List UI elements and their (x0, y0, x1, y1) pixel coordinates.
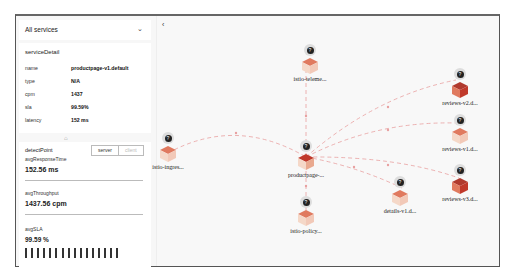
sla-bar-chart (25, 248, 118, 258)
avg-throughput-label: avgThroughput (25, 190, 59, 196)
node-reviews-v2[interactable]: reviews-v2.d... (430, 68, 490, 106)
service-badge-icon (454, 68, 466, 80)
avg-response-time-value: 152.56 ms (25, 166, 58, 173)
detect-point-label: detectPoint (25, 147, 53, 153)
cube-icon (451, 81, 469, 99)
service-badge-icon (300, 196, 312, 208)
cube-icon (297, 209, 315, 227)
detail-value: 152 ms (71, 117, 89, 123)
node-istio-ingress[interactable]: istio-ingres... (138, 132, 198, 170)
detail-value: N/A (71, 78, 80, 84)
cube-icon (159, 145, 177, 163)
node-label: reviews-v3.d... (430, 196, 490, 202)
detail-value: 99.59% (71, 104, 89, 110)
avg-response-time-label: avgResponseTime (25, 156, 67, 162)
avg-throughput-sparkline (25, 214, 143, 215)
avg-throughput-value: 1437.56 cpm (25, 200, 67, 207)
cube-icon (451, 177, 469, 195)
node-label: reviews-v1.d... (430, 146, 490, 152)
cube-icon (451, 127, 469, 145)
service-detail-title: serviceDetail (25, 49, 59, 55)
service-badge-icon (454, 114, 466, 126)
collapse-icon[interactable]: ⌂ (64, 135, 68, 141)
topology-panel: All services ⌄ serviceDetail nameproduct… (15, 14, 500, 267)
node-productpage[interactable]: productpage-... (276, 140, 336, 178)
service-select-value: All services (25, 26, 58, 33)
detail-key: latency (25, 117, 41, 123)
node-istio-telemetry[interactable]: istio-teleme... (280, 44, 340, 82)
avg-sla-value: 99.59 % (25, 236, 49, 243)
cube-icon (391, 189, 409, 207)
detail-value: 1437 (71, 91, 83, 97)
detail-key: type (25, 78, 35, 84)
chevron-down-icon: ⌄ (137, 25, 143, 33)
service-badge-icon (300, 140, 312, 152)
avg-sla-label: avgSLA (25, 226, 43, 232)
service-detail-card: serviceDetail nameproductpage-v1.default… (19, 43, 151, 133)
detect-point-toggle: server client (91, 145, 144, 156)
node-label: istio-policy... (276, 228, 336, 234)
node-label: reviews-v2.d... (430, 100, 490, 106)
node-label: istio-ingres... (138, 164, 198, 170)
node-details[interactable]: details-v1.d... (370, 176, 430, 214)
node-reviews-v1[interactable]: reviews-v1.d... (430, 114, 490, 152)
cube-icon (297, 153, 315, 171)
node-label: istio-teleme... (280, 76, 340, 82)
detail-row-type: typeN/A (25, 78, 145, 87)
detail-row-name: nameproductpage-v1.default (25, 65, 145, 74)
sidebar: All services ⌄ serviceDetail nameproduct… (16, 16, 157, 266)
avg-response-time-sparkline (25, 180, 143, 181)
service-badge-icon (454, 164, 466, 176)
service-badge-icon (162, 132, 174, 144)
detail-row-cpm: cpm1437 (25, 91, 145, 100)
cube-icon (301, 57, 319, 75)
node-istio-policy[interactable]: istio-policy... (276, 196, 336, 234)
service-badge-icon (304, 44, 316, 56)
node-reviews-v3[interactable]: reviews-v3.d... (430, 164, 490, 202)
detail-value: productpage-v1.default (71, 65, 128, 71)
service-select[interactable]: All services ⌄ (19, 20, 151, 40)
detail-key: cpm (25, 91, 35, 97)
server-toggle[interactable]: server (92, 146, 119, 155)
topology-graph[interactable]: ‹ istio-teleme... (156, 16, 499, 266)
service-badge-icon (394, 176, 406, 188)
detail-row-sla: sla99.59% (25, 104, 145, 113)
detail-key: sla (25, 104, 32, 110)
detail-key: name (25, 65, 38, 71)
detail-row-latency: latency152 ms (25, 117, 145, 126)
node-label: details-v1.d... (370, 208, 430, 214)
metrics-card: detectPoint server client avgResponseTim… (19, 142, 151, 267)
node-label: productpage-... (276, 172, 336, 178)
